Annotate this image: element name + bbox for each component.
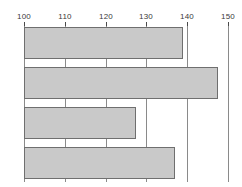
plot-area: 100 110 120 130 140 150 <box>0 0 242 187</box>
tickmark-130 <box>146 22 147 26</box>
bar-row-1 <box>24 27 183 59</box>
x-tick-label-150: 150 <box>221 12 235 21</box>
tickmark-100 <box>24 22 25 26</box>
x-tick-label-120: 120 <box>99 12 113 21</box>
tickmark-120 <box>106 22 107 26</box>
tickmark-110 <box>65 22 66 26</box>
tickmark-140 <box>187 22 188 26</box>
bar-row-2 <box>24 67 218 99</box>
tickmark-150 <box>228 22 229 26</box>
x-tick-label-140: 140 <box>180 12 194 21</box>
x-tick-label-130: 130 <box>139 12 153 21</box>
bar-chart: 100 110 120 130 140 150 <box>0 0 242 187</box>
bar-row-4 <box>24 147 175 179</box>
x-tick-label-110: 110 <box>58 12 71 21</box>
bars-group <box>0 0 242 187</box>
x-tick-label-100: 100 <box>17 12 31 21</box>
bar-row-3 <box>24 107 136 139</box>
